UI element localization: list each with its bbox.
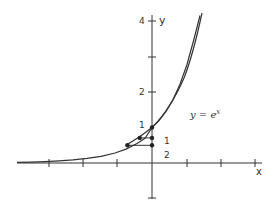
annotation-2: 2 (164, 150, 170, 160)
annotation-1: 1 (164, 136, 170, 146)
y-axis-label: y (159, 14, 166, 27)
x-axis-label: x (256, 166, 262, 177)
exp-function-graph: 4 2 1 y x 1 2 y = ex (0, 0, 275, 214)
exp-curve (17, 16, 200, 163)
y-tick-label-2: 2 (139, 87, 145, 97)
y-tick-label-1: 1 (139, 120, 145, 130)
y-tick-label-4: 4 (139, 16, 145, 26)
function-label: y = ex (189, 108, 220, 120)
